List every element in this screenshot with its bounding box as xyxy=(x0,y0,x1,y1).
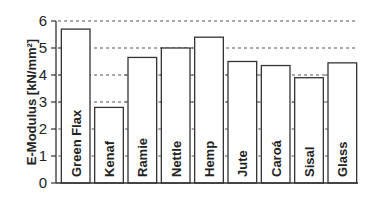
x-category-label: Sisal xyxy=(302,147,317,177)
bar-green-flax: Green Flax xyxy=(58,29,90,183)
y-tick-label: 0 xyxy=(39,174,47,191)
x-category-label: Jute xyxy=(235,150,250,177)
bar-nettle: Nettle xyxy=(158,48,190,183)
bar-glass: Glass xyxy=(325,63,357,183)
bar-caro-: Caroá xyxy=(258,66,290,183)
bar-ramie: Ramie xyxy=(125,57,157,183)
y-tick-label: 4 xyxy=(39,66,47,83)
y-tick-label: 6 xyxy=(39,12,47,29)
bar-jute: Jute xyxy=(225,62,257,184)
y-tick-label: 5 xyxy=(39,39,47,56)
bars: Green FlaxKenafRamieNettleHempJuteCaroáS… xyxy=(58,29,356,183)
x-category-label: Kenaf xyxy=(102,140,117,177)
x-category-label: Hemp xyxy=(202,141,217,177)
bar-kenaf: Kenaf xyxy=(92,107,124,183)
bar-chart: E-Modulus [kN/mm²] Green FlaxKenafRamieN… xyxy=(0,0,376,197)
x-category-label: Nettle xyxy=(169,141,184,177)
bar-sisal: Sisal xyxy=(292,78,324,183)
x-category-label: Caroá xyxy=(269,139,284,177)
x-category-label: Glass xyxy=(335,142,350,177)
y-axis: 0123456 xyxy=(39,12,56,191)
y-axis-label: E-Modulus [kN/mm²] xyxy=(24,39,39,165)
y-tick-label: 3 xyxy=(39,93,47,110)
x-category-label: Ramie xyxy=(135,138,150,177)
x-category-label: Green Flax xyxy=(69,109,84,177)
bar-hemp: Hemp xyxy=(192,37,224,183)
y-tick-label: 1 xyxy=(39,147,47,164)
y-tick-label: 2 xyxy=(39,120,47,137)
